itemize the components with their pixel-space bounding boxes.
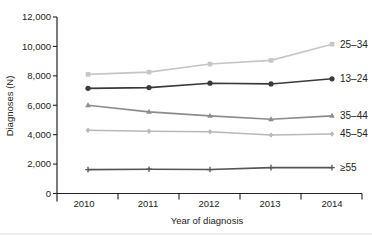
data-point-circle-icon <box>146 85 151 90</box>
data-point-square-icon <box>269 58 274 63</box>
data-point-square-icon <box>86 72 91 77</box>
y-tick-label: 12,000 <box>22 11 51 22</box>
series-label: 35–44 <box>340 110 368 121</box>
series-label: 45–54 <box>340 128 368 139</box>
x-tick-label: 2011 <box>138 198 158 209</box>
data-point-square-icon <box>208 62 213 67</box>
data-point-diamond-icon <box>147 128 152 134</box>
data-point-diamond-icon <box>86 127 91 133</box>
data-point-circle-icon <box>207 81 212 86</box>
data-point-diamond-icon <box>208 129 213 135</box>
data-point-circle-icon <box>329 76 334 81</box>
data-point-square-icon <box>330 42 335 47</box>
y-tick-label: 10,000 <box>22 41 51 52</box>
series-13-24: 13–24 <box>85 73 368 91</box>
series-layer: 25–3413–2435–4445–54≥55 <box>85 39 368 173</box>
series-45-54: 45–54 <box>86 127 369 139</box>
y-tick-label: 8,000 <box>27 70 51 81</box>
bottom-divider <box>0 233 372 235</box>
series-line <box>88 44 332 74</box>
data-point-circle-icon <box>85 86 90 91</box>
x-axis-title: Year of diagnosis <box>171 215 244 226</box>
series-label: 25–34 <box>340 39 368 50</box>
y-axis: 02,0004,0006,0008,00010,00012,000 <box>22 11 57 201</box>
data-point-plus-icon <box>85 167 91 173</box>
series-label: ≥55 <box>340 162 357 173</box>
series-label: 13–24 <box>340 73 368 84</box>
x-tick-label: 2013 <box>259 198 280 209</box>
y-tick-label: 2,000 <box>27 158 51 169</box>
series--55: ≥55 <box>85 162 357 173</box>
x-tick-label: 2010 <box>73 198 94 209</box>
x-axis: 20102011201220132014 <box>53 194 362 209</box>
y-tick-label: 6,000 <box>27 100 51 111</box>
data-point-diamond-icon <box>269 132 274 138</box>
y-tick-label: 0 <box>46 188 51 199</box>
data-point-plus-icon <box>146 166 152 172</box>
series-25-34: 25–34 <box>86 39 369 77</box>
data-point-plus-icon <box>268 165 274 171</box>
data-point-square-icon <box>147 70 152 75</box>
data-point-plus-icon <box>329 165 335 171</box>
x-tick-label: 2014 <box>321 198 342 209</box>
x-tick-label: 2012 <box>198 198 219 209</box>
y-tick-label: 4,000 <box>27 129 51 140</box>
y-axis-title: Diagnoses (N) <box>4 76 15 137</box>
line-chart: 02,0004,0006,0008,00010,00012,000 201020… <box>0 0 372 236</box>
data-point-diamond-icon <box>330 131 335 137</box>
data-point-plus-icon <box>207 167 213 173</box>
series-35-44: 35–44 <box>85 102 368 121</box>
data-point-circle-icon <box>268 81 273 86</box>
